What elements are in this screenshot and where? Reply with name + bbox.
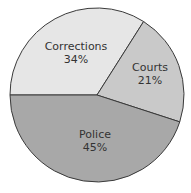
slice-label-police: Police	[79, 128, 111, 141]
pie-chart: Corrections 34% Courts 21% Police 45%	[0, 0, 191, 193]
slice-value-corrections: 34%	[64, 53, 88, 66]
slice-label-courts: Courts	[132, 61, 168, 74]
pie-svg: Corrections 34% Courts 21% Police 45%	[0, 0, 191, 193]
slice-value-courts: 21%	[138, 74, 162, 87]
slice-label-corrections: Corrections	[45, 40, 108, 53]
slice-value-police: 45%	[83, 141, 107, 154]
